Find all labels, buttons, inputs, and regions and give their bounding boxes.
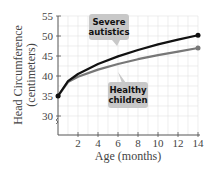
x-tick-label: 14 (193, 137, 205, 149)
x-axis-label: Age (months) (95, 149, 161, 163)
severe-label-line1: Severe (92, 17, 125, 27)
head-circumference-chart: 303540455055 2468101214 Severe autistics… (0, 0, 212, 170)
end-point (196, 33, 201, 38)
x-tick-label: 2 (75, 137, 81, 149)
y-tick-label: 50 (42, 30, 54, 42)
y-tick-label: 55 (42, 10, 54, 22)
start-point (56, 94, 61, 99)
severe-label-line2: autistics (89, 27, 130, 37)
end-point (196, 46, 201, 51)
y-tick-label: 30 (42, 110, 54, 122)
x-tick-label: 12 (173, 137, 184, 149)
x-tick-label: 10 (153, 137, 165, 149)
label-bubble-severe-autistics: Severe autistics (89, 14, 130, 46)
x-tick-label: 8 (135, 137, 141, 149)
y-tick-label: 45 (42, 50, 54, 62)
y-axis-label: Head Circumference (centimeters) (11, 25, 38, 125)
y-tick-label: 40 (42, 70, 54, 82)
y-axis-label-line2: (centimeters) (24, 43, 38, 106)
y-axis-label-line1: Head Circumference (11, 25, 25, 125)
x-tick-label: 6 (115, 137, 121, 149)
healthy-label-line1: Healthy (109, 85, 147, 95)
y-tick-label: 35 (42, 90, 54, 102)
x-tick-label: 4 (95, 137, 101, 149)
healthy-label-line2: children (108, 95, 147, 105)
